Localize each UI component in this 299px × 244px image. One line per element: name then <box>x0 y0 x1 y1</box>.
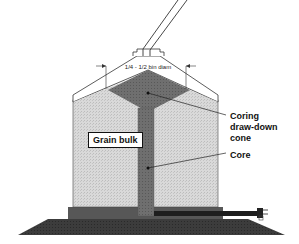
auger-motor <box>257 208 263 218</box>
coring-label-line3: cone <box>230 133 278 144</box>
grain-bulk-label: Grain bulk <box>88 132 143 148</box>
cone-dot <box>147 92 150 95</box>
roof-vent <box>133 49 164 56</box>
arrowhead-left <box>102 64 106 68</box>
fill-pipe <box>143 0 187 56</box>
arrowhead-right <box>186 64 190 68</box>
coring-cone-label: Coring draw-down cone <box>230 111 278 144</box>
core-dot <box>147 167 150 170</box>
unload-auger <box>154 211 260 216</box>
core-column <box>138 108 154 216</box>
coring-label-line2: draw-down <box>230 122 278 133</box>
bin-diameter-label: 1/4 - 1/2 bin diam <box>112 64 184 70</box>
core-label: Core <box>230 150 251 160</box>
floor-slab <box>18 219 285 235</box>
coring-label-line1: Coring <box>230 111 278 122</box>
